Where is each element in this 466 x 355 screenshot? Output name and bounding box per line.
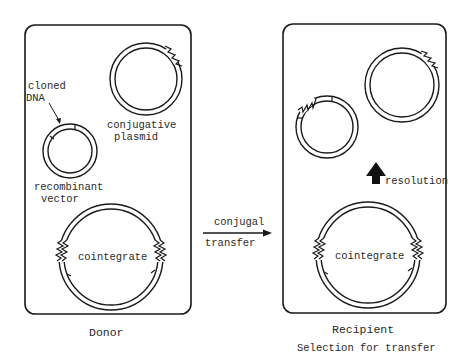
cloned-dna-label-2: DNA <box>26 92 46 104</box>
transfer-label: transfer <box>205 237 255 249</box>
conjugative-plasmid-label-2: plasmid <box>114 131 158 143</box>
arrow-right-icon <box>203 230 272 237</box>
recipient-vector-icon <box>296 96 358 158</box>
arrow-up-icon <box>366 162 386 184</box>
recipient-label: Recipient <box>332 323 394 336</box>
recipient-plasmid-icon <box>365 48 439 122</box>
resolution-label: resolution <box>385 175 448 187</box>
selection-caption: Selection for transfer <box>297 342 436 354</box>
conjugative-plasmid-icon <box>110 43 182 115</box>
conjugative-plasmid-label-1: conjugative <box>107 119 176 131</box>
recombinant-vector-label-2: vector <box>41 193 79 205</box>
recombinant-vector-label-1: recombinant <box>34 181 103 193</box>
conjugal-transfer-diagram: conjugative plasmid cloned DNA recombina… <box>0 0 466 355</box>
pointer-arrow-icon <box>49 103 61 124</box>
recipient-cointegrate-label: cointegrate <box>335 250 404 262</box>
donor-cointegrate-label: cointegrate <box>78 251 147 263</box>
conjugal-label: conjugal <box>214 216 264 228</box>
donor-label: Donor <box>89 326 124 339</box>
recombinant-vector-icon <box>43 124 97 178</box>
recipient-cell-box <box>283 24 446 313</box>
cloned-dna-label-1: cloned <box>28 80 66 92</box>
